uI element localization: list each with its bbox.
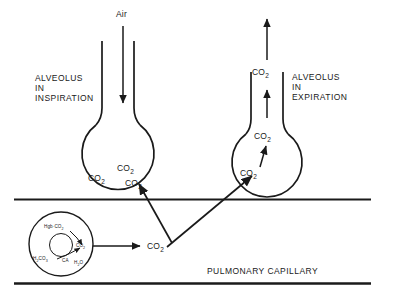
left-alveolus-label-line1: ALVEOLUS — [35, 73, 94, 83]
co2-sac-rise-arrow — [260, 146, 266, 167]
rbc-water-label: H2O — [74, 260, 83, 267]
rbc-carbonic-acid-label: H2CO3 — [33, 256, 48, 263]
right-alveolus-co2-upper: CO2 — [254, 131, 271, 143]
capillary-free-co2: CO2 — [147, 241, 164, 253]
left-alveolus-label: ALVEOLUS IN INSPIRATION — [35, 73, 94, 103]
left-alveolus-co2-lower: CO2 — [125, 178, 142, 190]
right-alveolus-label-line3: EXPIRATION — [292, 92, 347, 102]
left-alveolus-label-line3: INSPIRATION — [35, 93, 94, 103]
rbc-carbonic-anhydrase-label: CA — [62, 258, 69, 263]
rbc-dissolved-co2-label: CO2 — [76, 243, 85, 250]
left-alveolus-label-line2: IN — [35, 83, 94, 93]
right-alveolus-label-line2: IN — [292, 82, 347, 92]
diagram-canvas: Air ALVEOLUS IN INSPIRATION ALVEOLUS IN … — [0, 0, 394, 298]
right-alveolus-co2-duct: CO2 — [252, 67, 269, 79]
rbc-central-pallor — [50, 234, 73, 257]
co2-diffusion-arrow-right — [167, 176, 252, 247]
right-alveolus-co2-lower: CO2 — [240, 168, 257, 180]
right-alveolus-label-line1: ALVEOLUS — [292, 72, 347, 82]
left-alveolus-co2-left: CO2 — [88, 173, 105, 185]
diagram-vector-layer — [0, 0, 394, 298]
pulmonary-capillary-label: PULMONARY CAPILLARY — [207, 266, 318, 276]
left-alveolus-co2-upper: CO2 — [117, 163, 134, 175]
co2-diffusion-arrow-left — [139, 184, 172, 243]
rbc-carbaminohemoglobin-label: Hgb·CO2 — [44, 224, 64, 231]
right-alveolus-label: ALVEOLUS IN EXPIRATION — [292, 72, 347, 102]
air-label: Air — [116, 9, 127, 19]
